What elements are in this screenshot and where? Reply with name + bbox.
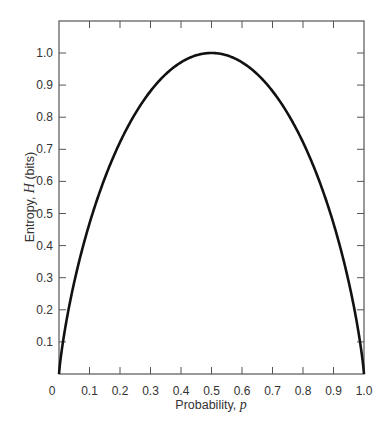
plot-frame	[59, 21, 364, 374]
y-tick-label: 0.1	[36, 335, 53, 349]
y-axis-label: Entropy, H (bits)	[22, 152, 37, 242]
x-tick-label: 0.4	[173, 384, 190, 398]
x-tick-label: 0.8	[295, 384, 312, 398]
entropy-curve	[59, 53, 364, 374]
x-tick-label: 1.0	[356, 384, 373, 398]
y-tick-label: 0.6	[36, 174, 53, 188]
entropy-chart: 00.10.20.30.40.50.60.70.80.91.0 0.10.20.…	[0, 0, 389, 432]
x-axis-tick-labels: 00.10.20.30.40.50.60.70.80.91.0	[49, 384, 373, 398]
y-tick-label: 0.9	[36, 78, 53, 92]
x-tick-label: 0.2	[112, 384, 129, 398]
x-tick-label: 0.9	[325, 384, 342, 398]
x-tick-label: 0	[49, 384, 56, 398]
x-tick-label: 0.3	[142, 384, 159, 398]
x-tick-label: 0.1	[81, 384, 98, 398]
x-axis-label: Probability, p	[175, 397, 246, 412]
y-tick-label: 0.2	[36, 303, 53, 317]
y-axis-tick-labels: 0.10.20.30.40.50.60.70.80.91.0	[36, 46, 53, 349]
y-tick-label: 0.7	[36, 142, 53, 156]
x-tick-label: 0.6	[234, 384, 251, 398]
y-tick-label: 0.3	[36, 271, 53, 285]
y-tick-label: 0.8	[36, 110, 53, 124]
y-tick-label: 1.0	[36, 46, 53, 60]
y-axis-ticks	[59, 53, 364, 342]
x-tick-label: 0.5	[203, 384, 220, 398]
y-tick-label: 0.4	[36, 239, 53, 253]
y-tick-label: 0.5	[36, 207, 53, 221]
x-axis-ticks	[90, 21, 334, 374]
x-tick-label: 0.7	[264, 384, 281, 398]
